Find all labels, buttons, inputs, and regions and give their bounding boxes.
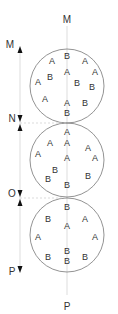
letter-b: B — [82, 98, 88, 108]
letter-a: A — [85, 143, 91, 153]
arrow-up-n-icon — [18, 124, 23, 131]
letter-a: A — [82, 56, 88, 66]
letter-a: A — [64, 67, 70, 77]
letter-b: B — [64, 246, 70, 256]
letter-b: B — [85, 171, 91, 181]
letter-b: B — [64, 108, 70, 118]
axis-label-bottom: P — [64, 301, 71, 312]
arrow-down-o-icon — [18, 190, 23, 197]
letter-b: B — [82, 252, 88, 262]
letter-b: B — [45, 174, 51, 184]
letter-a: A — [35, 77, 41, 87]
letter-a: A — [64, 98, 70, 108]
letter-a: A — [64, 127, 70, 137]
side-marker-p: P — [9, 266, 16, 277]
side-marker-n: N — [8, 113, 15, 124]
letter-a: A — [35, 149, 41, 159]
letter-b: B — [64, 202, 70, 212]
letter-a: A — [92, 232, 98, 242]
side-marker-m: M — [6, 39, 14, 50]
letter-b: B — [52, 165, 58, 175]
letter-b: B — [47, 72, 53, 82]
letter-a: A — [64, 221, 70, 231]
letter-a: A — [42, 94, 48, 104]
letter-b: B — [64, 180, 70, 190]
letter-a: A — [64, 138, 70, 148]
letter-a: A — [92, 153, 98, 163]
letter-a: A — [92, 67, 98, 77]
letter-a: A — [49, 56, 55, 66]
letter-b: B — [74, 78, 80, 88]
letter-a: A — [47, 138, 53, 148]
letter-b: B — [89, 82, 95, 92]
arrow-down-p-icon — [18, 266, 23, 273]
letter-a: A — [35, 232, 41, 242]
side-marker-o: O — [8, 188, 16, 199]
letter-b: B — [45, 252, 51, 262]
axis-label-top: M — [63, 14, 71, 25]
arrow-down-n-icon — [18, 115, 23, 122]
letter-a: A — [82, 214, 88, 224]
letter-b: B — [64, 256, 70, 266]
arrow-up-o-icon — [18, 199, 23, 206]
letter-a: A — [64, 153, 70, 163]
diagram-canvas: M P M N O P BAAAABABBAABBAAAAAAABBBBBBAA… — [0, 0, 118, 314]
letter-b: B — [45, 214, 51, 224]
letter-b: B — [64, 51, 70, 61]
arrow-up-m-icon — [18, 46, 23, 53]
